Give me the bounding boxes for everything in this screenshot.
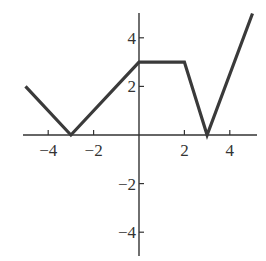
x-tick-label: −4 xyxy=(39,141,58,160)
y-tick-label: 4 xyxy=(128,29,137,48)
x-tick-label: 4 xyxy=(226,141,235,160)
function-graph: −4−22442−2−4 xyxy=(0,0,266,261)
y-tick-label: −4 xyxy=(118,223,137,242)
x-tick-label: −2 xyxy=(85,141,103,160)
y-tick-label: 2 xyxy=(128,77,137,96)
axes xyxy=(23,13,257,256)
x-tick-label: 2 xyxy=(180,141,189,160)
y-tick-label: −2 xyxy=(118,175,136,194)
